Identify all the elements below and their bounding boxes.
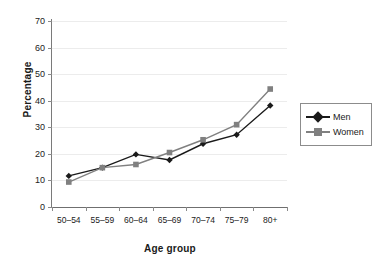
legend-item-women: Women — [306, 124, 364, 139]
data-point-women — [234, 122, 240, 128]
y-tick-label: 10 — [35, 175, 45, 185]
data-point-women — [100, 165, 106, 171]
y-tick-label: 50 — [35, 69, 45, 79]
x-tick-mark — [253, 207, 254, 211]
x-tick-label: 70–74 — [191, 215, 215, 225]
data-point-men — [166, 157, 172, 163]
x-axis-title: Age group — [52, 243, 288, 254]
data-point-women — [133, 162, 139, 168]
series-line-men — [69, 105, 270, 175]
data-point-women — [167, 150, 173, 156]
x-tick-label: 55–59 — [91, 215, 115, 225]
y-tick-label: 30 — [35, 122, 45, 132]
legend-label-men: Men — [333, 112, 351, 122]
chart-legend: Men Women — [300, 103, 372, 146]
y-tick-label: 60 — [35, 43, 45, 53]
x-tick-label: 80+ — [263, 215, 277, 225]
legend-marker-men-icon — [306, 111, 330, 123]
y-tick-label: 40 — [35, 96, 45, 106]
data-point-women — [200, 137, 206, 143]
x-tick-mark — [86, 207, 87, 211]
x-tick-label: 75–79 — [225, 215, 249, 225]
data-point-men — [133, 151, 139, 157]
y-tick-label: 20 — [35, 149, 45, 159]
y-tick-label: 70 — [35, 16, 45, 26]
data-point-men — [66, 173, 72, 179]
legend-item-men: Men — [306, 109, 364, 124]
data-point-women — [66, 179, 72, 185]
x-tick-mark — [220, 207, 221, 211]
x-tick-mark — [186, 207, 187, 211]
x-tick-label: 65–69 — [158, 215, 182, 225]
x-tick-label: 60–64 — [124, 215, 148, 225]
legend-marker-women-icon — [306, 126, 330, 138]
series-layer — [52, 21, 287, 207]
x-tick-label: 50–54 — [57, 215, 81, 225]
y-axis-title: Percentage — [22, 30, 33, 150]
x-tick-mark — [287, 207, 288, 211]
plot-area: 010203040506070 50–5455–5960–6465–6970–7… — [52, 21, 287, 207]
x-tick-mark — [119, 207, 120, 211]
x-tick-mark — [153, 207, 154, 211]
x-tick-mark — [52, 207, 53, 211]
legend-label-women: Women — [333, 127, 364, 137]
y-tick-label: 0 — [40, 202, 45, 212]
data-point-women — [267, 86, 273, 92]
